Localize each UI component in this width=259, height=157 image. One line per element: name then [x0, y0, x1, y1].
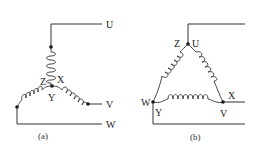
delta-label-w: W — [141, 97, 151, 108]
delta-label-u: U — [192, 38, 200, 49]
delta-label-v: V — [220, 108, 228, 119]
star-label-u: U — [106, 19, 114, 30]
star-label-v: V — [106, 99, 114, 110]
star-label-x: X — [57, 74, 65, 85]
star-coil-v — [52, 86, 88, 105]
delta-label-x: X — [228, 90, 236, 101]
delta-coil-left — [153, 44, 188, 102]
delta-coil-right — [188, 44, 223, 102]
delta-w-line — [153, 102, 245, 124]
star-label-y: Y — [48, 92, 55, 103]
delta-label-z: Z — [174, 38, 180, 49]
winding-diagram: U V W Z X Y (a) Z U W Y X V (b) — [0, 0, 259, 157]
star-label-z: Z — [40, 76, 46, 87]
star-connection: U V W Z X Y (a) — [15, 19, 116, 141]
star-u-line — [51, 24, 102, 47]
star-caption: (a) — [38, 131, 48, 141]
star-coil-u — [47, 47, 56, 86]
delta-label-y: Y — [155, 107, 162, 118]
star-label-w: W — [106, 119, 116, 130]
delta-connection: Z U W Y X V (b) — [141, 24, 245, 142]
star-w-line — [17, 107, 102, 124]
delta-caption: (b) — [190, 132, 201, 142]
delta-coil-bottom — [153, 95, 223, 103]
star-coil-w — [17, 86, 52, 107]
